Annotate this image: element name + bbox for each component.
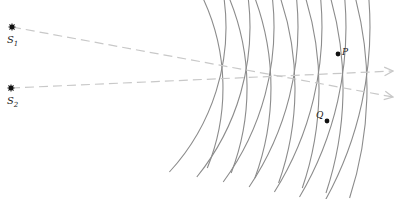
interference-diagram	[0, 0, 399, 199]
point-label-p-text: P	[342, 47, 348, 57]
wavefront-arc-s2-5	[302, 0, 319, 188]
source-label-s2: S2	[7, 96, 18, 109]
source-label-s1-letter: S	[7, 34, 14, 45]
point-dot-p	[336, 52, 341, 57]
source-label-s2-sub: 2	[14, 101, 18, 109]
source-label-s1: S1	[7, 35, 18, 48]
wavefronts-s1	[169, 0, 370, 199]
ray-arrow-s1	[12, 27, 393, 97]
point-label-q: Q	[316, 111, 323, 120]
source-label-s2-letter: S	[7, 95, 14, 106]
wavefronts-s2	[203, 0, 367, 198]
point-markers	[325, 52, 341, 124]
ray-arrow-s2	[11, 71, 393, 88]
source-star-icon-s2	[7, 84, 15, 92]
point-label-q-text: Q	[316, 110, 323, 120]
wavefront-arc-s2-3	[255, 0, 271, 178]
wavefront-arc-s1-7	[324, 0, 370, 199]
wavefront-arc-s1-3	[223, 0, 274, 182]
source-label-s1-sub: 1	[14, 40, 18, 48]
point-dot-q	[325, 119, 330, 124]
source-star-icon-s1	[8, 23, 16, 31]
wavefront-arc-s2-6	[326, 0, 343, 193]
ray-arrows	[11, 27, 393, 97]
wavefront-arc-s2-4	[279, 0, 295, 183]
wavefront-arc-s2-7	[350, 0, 367, 198]
point-label-p: P	[342, 48, 348, 57]
wavefront-arc-s1-6	[300, 0, 346, 197]
